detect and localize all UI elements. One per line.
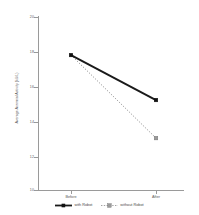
chart-legend: with Robot without Robot [0, 203, 199, 208]
legend-entry-without-robot: without Robot [101, 203, 143, 208]
legend-swatch-solid-line [55, 203, 72, 208]
data-point-before [69, 53, 73, 57]
legend-label-with-robot: with Robot [74, 203, 92, 208]
legend-label-without-robot: without Robot [120, 203, 143, 208]
legend-entry-with-robot: with Robot [55, 203, 92, 208]
series-line-with-robot [71, 55, 156, 100]
data-point-with-robot-after [154, 98, 158, 102]
data-point-without-robot-after [154, 136, 158, 140]
line-chart-figure: 20 18 16 14 12 10 Average Acromial Activ… [0, 0, 199, 215]
legend-swatch-dotted-line [101, 203, 118, 208]
series-canvas [0, 0, 199, 215]
plot-area [0, 0, 199, 215]
series-line-without-robot [71, 55, 156, 138]
